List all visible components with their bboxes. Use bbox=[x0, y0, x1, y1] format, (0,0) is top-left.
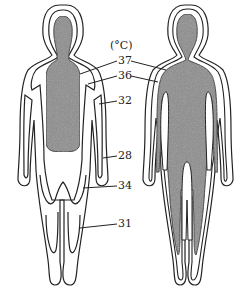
leader-37-right bbox=[131, 61, 166, 70]
right-arm-loop-r bbox=[205, 92, 213, 170]
isotherm-label-28: 28 bbox=[118, 150, 132, 161]
leader-28 bbox=[103, 156, 117, 158]
right-figure bbox=[143, 5, 233, 285]
left-leg-contour-31-r bbox=[68, 212, 80, 253]
isotherm-label-34: 34 bbox=[118, 180, 132, 191]
left-core-37 bbox=[46, 16, 80, 152]
right-arm-loop-l bbox=[161, 92, 169, 170]
left-leg-contour-31-l bbox=[46, 212, 58, 253]
isotherm-label-36: 36 bbox=[118, 70, 132, 81]
isotherm-label-31: 31 bbox=[118, 218, 132, 229]
unit-label: (°C) bbox=[110, 40, 133, 51]
leader-36-right bbox=[131, 76, 158, 82]
leader-31 bbox=[80, 224, 117, 228]
isotherm-label-32: 32 bbox=[118, 95, 132, 106]
isotherm-label-37: 37 bbox=[118, 55, 132, 66]
right-crotch-loop bbox=[182, 162, 192, 240]
